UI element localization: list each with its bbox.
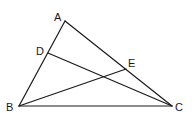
segment-be: [19, 69, 126, 106]
label-d: D: [36, 45, 44, 57]
triangle-diagram: A D E B C: [0, 0, 193, 119]
segment-ca: [65, 21, 172, 106]
label-c: C: [175, 101, 183, 113]
segment-ab: [19, 21, 65, 106]
label-a: A: [54, 11, 62, 23]
label-b: B: [6, 101, 13, 113]
segment-dc: [48, 53, 172, 106]
label-e: E: [128, 57, 135, 69]
